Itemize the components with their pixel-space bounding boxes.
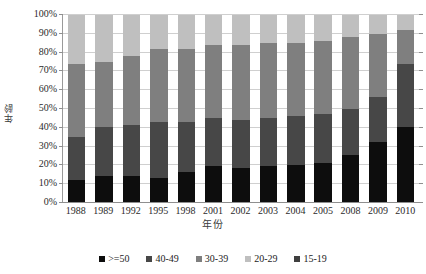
bar-segment[interactable] — [397, 15, 415, 30]
y-tick-label: 0% — [44, 197, 57, 207]
y-tick-label: 50% — [39, 103, 57, 113]
legend-item[interactable]: 30-39 — [196, 254, 228, 264]
bar-slot — [227, 15, 254, 202]
bar-segment[interactable] — [260, 118, 278, 167]
y-tick-label: 30% — [39, 141, 57, 151]
bar-segment[interactable] — [397, 127, 415, 202]
bar-segment[interactable] — [205, 118, 223, 167]
x-tick-label: 1995 — [144, 204, 171, 220]
stacked-bar[interactable] — [287, 15, 305, 202]
bar-slot — [90, 15, 117, 202]
x-tick-label: 2004 — [282, 204, 309, 220]
stacked-bar[interactable] — [369, 15, 387, 202]
stacked-bar[interactable] — [68, 15, 86, 202]
y-axis-tick-right — [419, 164, 423, 165]
bar-segment[interactable] — [342, 109, 360, 156]
stacked-bar[interactable] — [260, 15, 278, 202]
bar-segment[interactable] — [397, 30, 415, 64]
bar-segment[interactable] — [178, 172, 196, 202]
bar-segment[interactable] — [314, 114, 332, 163]
bar-slot — [392, 15, 419, 202]
y-axis-tick-right — [419, 89, 423, 90]
legend-swatch-icon — [294, 256, 300, 262]
bar-slot — [255, 15, 282, 202]
stacked-bar[interactable] — [397, 15, 415, 202]
y-tick-label: 80% — [39, 47, 57, 57]
y-axis-tick-right — [419, 108, 423, 109]
bar-slot — [173, 15, 200, 202]
bar-segment[interactable] — [397, 64, 415, 128]
legend-label: 20-29 — [254, 254, 277, 264]
legend-swatch-icon — [146, 256, 152, 262]
bar-segment[interactable] — [232, 45, 250, 120]
bar-slot — [282, 15, 309, 202]
legend-item[interactable]: >=50 — [99, 254, 129, 264]
bar-segment[interactable] — [314, 163, 332, 202]
x-tick-label: 2008 — [337, 204, 364, 220]
bar-segment[interactable] — [260, 15, 278, 43]
bar-segment[interactable] — [150, 49, 168, 122]
bar-segment[interactable] — [95, 176, 113, 202]
bar-segment[interactable] — [123, 15, 141, 56]
bar-segment[interactable] — [68, 15, 86, 64]
legend-label: 40-49 — [155, 254, 178, 264]
bar-segment[interactable] — [178, 49, 196, 122]
bar-segment[interactable] — [287, 15, 305, 43]
bar-segment[interactable] — [123, 125, 141, 175]
bar-segment[interactable] — [287, 165, 305, 202]
bar-segment[interactable] — [205, 15, 223, 45]
bar-segment[interactable] — [150, 15, 168, 49]
bar-segment[interactable] — [369, 142, 387, 202]
bar-segment[interactable] — [68, 137, 86, 180]
legend-item[interactable]: 40-49 — [146, 254, 178, 264]
legend-item[interactable]: 20-29 — [245, 254, 277, 264]
bar-segment[interactable] — [232, 168, 250, 202]
bar-segment[interactable] — [123, 176, 141, 202]
y-tick-label: 100% — [34, 9, 57, 19]
bar-segment[interactable] — [314, 15, 332, 41]
bar-slot — [145, 15, 172, 202]
bar-segment[interactable] — [342, 37, 360, 108]
y-tick-label: 40% — [39, 122, 57, 132]
stacked-bar[interactable] — [123, 15, 141, 202]
legend-swatch-icon — [99, 256, 105, 262]
bar-segment[interactable] — [314, 41, 332, 114]
legend-item[interactable]: 15-19 — [294, 254, 326, 264]
y-tick-label: 60% — [39, 84, 57, 94]
bar-segment[interactable] — [150, 122, 168, 178]
bar-segment[interactable] — [260, 43, 278, 118]
stacked-bar[interactable] — [342, 15, 360, 202]
bar-segment[interactable] — [342, 155, 360, 202]
bar-slot — [310, 15, 337, 202]
stacked-bar[interactable] — [205, 15, 223, 202]
x-tick-label: 1988 — [62, 204, 89, 220]
bar-segment[interactable] — [205, 166, 223, 202]
bar-segment[interactable] — [232, 15, 250, 45]
bar-segment[interactable] — [369, 34, 387, 98]
bar-segment[interactable] — [260, 166, 278, 202]
bar-segment[interactable] — [342, 15, 360, 37]
y-axis-tick-right — [419, 14, 423, 15]
bar-segment[interactable] — [232, 120, 250, 169]
bar-segment[interactable] — [150, 178, 168, 202]
stacked-bar[interactable] — [314, 15, 332, 202]
bar-segment[interactable] — [95, 15, 113, 62]
bar-segment[interactable] — [178, 15, 196, 49]
y-axis-tick-right — [419, 52, 423, 53]
stacked-bar[interactable] — [178, 15, 196, 202]
bar-segment[interactable] — [123, 56, 141, 125]
bar-segment[interactable] — [369, 15, 387, 34]
bar-segment[interactable] — [205, 45, 223, 118]
bar-segment[interactable] — [95, 127, 113, 176]
stacked-bar[interactable] — [150, 15, 168, 202]
bar-segment[interactable] — [369, 97, 387, 142]
stacked-bar[interactable] — [232, 15, 250, 202]
bar-segment[interactable] — [287, 116, 305, 165]
y-tick-label: 70% — [39, 65, 57, 75]
bar-segment[interactable] — [68, 180, 86, 202]
bar-segment[interactable] — [95, 62, 113, 127]
bar-segment[interactable] — [68, 64, 86, 137]
bar-segment[interactable] — [287, 43, 305, 116]
bar-segment[interactable] — [178, 122, 196, 172]
stacked-bar[interactable] — [95, 15, 113, 202]
